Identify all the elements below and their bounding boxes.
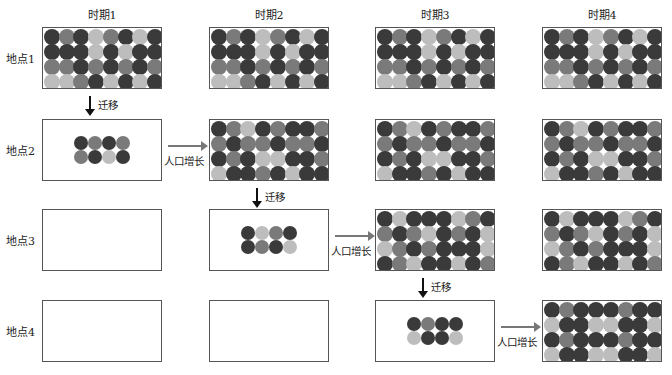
person-dot bbox=[544, 347, 560, 362]
person-dot bbox=[147, 74, 162, 89]
column-header-period-4: 时期4 bbox=[572, 6, 632, 22]
person-dot bbox=[618, 302, 634, 318]
person-dot bbox=[451, 241, 467, 257]
migration-arrow-icon bbox=[256, 188, 258, 202]
person-dot bbox=[240, 59, 256, 75]
person-dot bbox=[465, 256, 481, 271]
person-dot bbox=[559, 151, 575, 167]
person-dot bbox=[436, 29, 452, 45]
person-dot bbox=[588, 302, 604, 318]
person-dot bbox=[588, 59, 604, 75]
person-dot bbox=[240, 166, 256, 181]
migrant-dot bbox=[449, 317, 463, 331]
migration-label: 迁移 bbox=[265, 189, 285, 204]
person-dot bbox=[618, 121, 634, 137]
person-dot bbox=[226, 121, 242, 137]
person-dot bbox=[603, 241, 619, 257]
migrant-dot bbox=[269, 226, 283, 240]
person-dot bbox=[406, 136, 422, 152]
person-dot bbox=[211, 74, 227, 89]
person-dot bbox=[480, 241, 495, 257]
person-dot bbox=[573, 226, 589, 242]
person-dot bbox=[132, 74, 148, 89]
person-dot bbox=[544, 121, 560, 137]
person-dot bbox=[270, 151, 286, 167]
person-dot bbox=[299, 74, 315, 89]
population-grid bbox=[543, 301, 661, 361]
person-dot bbox=[255, 166, 271, 181]
person-dot bbox=[73, 59, 89, 75]
person-dot bbox=[465, 166, 481, 181]
person-dot bbox=[73, 44, 89, 60]
person-dot bbox=[436, 136, 452, 152]
person-dot bbox=[255, 136, 271, 152]
person-dot bbox=[118, 44, 134, 60]
person-dot bbox=[465, 59, 481, 75]
person-dot bbox=[421, 44, 437, 60]
person-dot bbox=[465, 29, 481, 45]
person-dot bbox=[392, 121, 408, 137]
migrant-dot bbox=[102, 150, 116, 164]
person-dot bbox=[603, 302, 619, 318]
person-dot bbox=[406, 74, 422, 89]
person-dot bbox=[392, 29, 408, 45]
person-dot bbox=[632, 226, 648, 242]
person-dot bbox=[480, 136, 495, 152]
person-dot bbox=[103, 59, 119, 75]
person-dot bbox=[377, 29, 393, 45]
person-dot bbox=[465, 44, 481, 60]
migrant-dot bbox=[116, 136, 130, 150]
person-dot bbox=[573, 166, 589, 181]
person-dot bbox=[544, 241, 560, 257]
person-dot bbox=[314, 74, 329, 89]
person-dot bbox=[255, 121, 271, 137]
growth-arrow-icon bbox=[168, 145, 202, 147]
person-dot bbox=[406, 256, 422, 271]
person-dot bbox=[392, 211, 408, 227]
person-dot bbox=[314, 166, 329, 181]
migration-label: 迁移 bbox=[431, 279, 451, 294]
person-dot bbox=[603, 211, 619, 227]
migrant-dot bbox=[241, 240, 255, 254]
person-dot bbox=[421, 59, 437, 75]
person-dot bbox=[377, 121, 393, 137]
person-dot bbox=[632, 256, 648, 271]
person-dot bbox=[573, 347, 589, 362]
migrant-dot bbox=[269, 240, 283, 254]
person-dot bbox=[573, 59, 589, 75]
person-dot bbox=[285, 166, 301, 181]
person-dot bbox=[647, 59, 662, 75]
cell-site4-period2 bbox=[209, 300, 329, 362]
person-dot bbox=[632, 121, 648, 137]
person-dot bbox=[299, 59, 315, 75]
person-dot bbox=[647, 256, 662, 271]
cell-site2-period2 bbox=[209, 119, 329, 181]
person-dot bbox=[392, 241, 408, 257]
person-dot bbox=[406, 44, 422, 60]
person-dot bbox=[451, 151, 467, 167]
person-dot bbox=[377, 211, 393, 227]
person-dot bbox=[647, 302, 662, 318]
person-dot bbox=[436, 74, 452, 89]
person-dot bbox=[603, 44, 619, 60]
person-dot bbox=[618, 211, 634, 227]
person-dot bbox=[588, 317, 604, 333]
person-dot bbox=[240, 44, 256, 60]
migrant-dot bbox=[241, 226, 255, 240]
person-dot bbox=[559, 74, 575, 89]
person-dot bbox=[421, 241, 437, 257]
person-dot bbox=[544, 302, 560, 318]
person-dot bbox=[632, 136, 648, 152]
person-dot bbox=[314, 121, 329, 137]
person-dot bbox=[559, 332, 575, 348]
person-dot bbox=[421, 211, 437, 227]
person-dot bbox=[421, 226, 437, 242]
row-header-site-3: 地点3 bbox=[6, 232, 35, 248]
person-dot bbox=[647, 241, 662, 257]
person-dot bbox=[270, 166, 286, 181]
person-dot bbox=[314, 151, 329, 167]
migrant-dot bbox=[255, 240, 269, 254]
person-dot bbox=[436, 211, 452, 227]
person-dot bbox=[240, 29, 256, 45]
person-dot bbox=[436, 121, 452, 137]
